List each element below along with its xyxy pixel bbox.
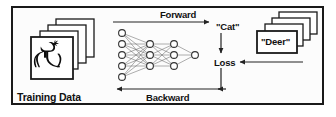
label-forward: Forward	[160, 10, 196, 20]
training-loop-diagram: Forward Backward "Cat" Loss "Deer" Train…	[0, 0, 336, 117]
label-loss: Loss	[214, 58, 235, 68]
backward-arrow	[117, 68, 221, 89]
training-data-stack	[31, 19, 94, 79]
label-training-data: Training Data	[17, 92, 81, 103]
label-prediction: "Cat"	[216, 22, 239, 32]
label-ground-truth: "Deer"	[261, 37, 290, 47]
label-backward: Backward	[146, 93, 189, 103]
neural-network-graphic	[119, 30, 199, 81]
